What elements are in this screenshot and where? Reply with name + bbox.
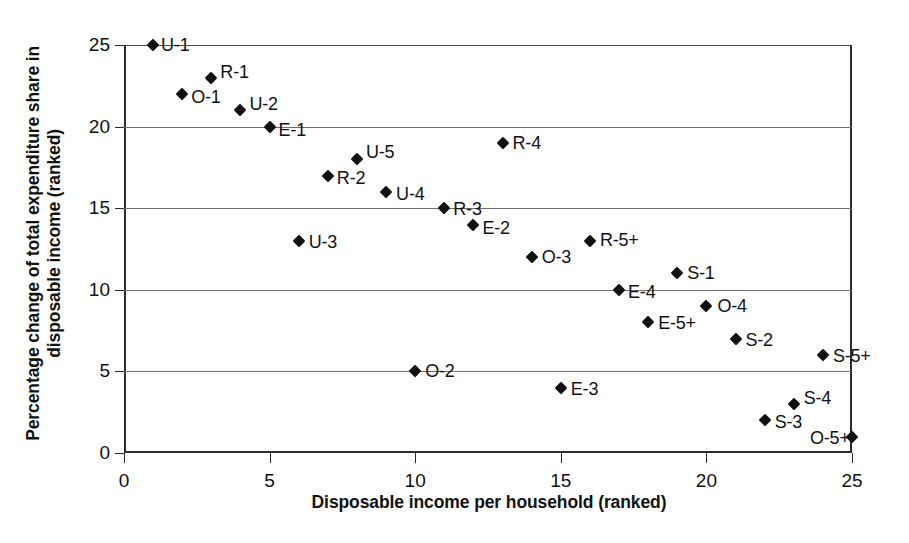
data-point-label: R-5+: [600, 229, 639, 250]
data-point-label: S-5+: [833, 346, 871, 367]
gridline: [124, 290, 852, 291]
data-point-label: E-4: [628, 281, 655, 302]
data-point-label: O-1: [191, 86, 220, 107]
y-axis-title: Percentage change of total expenditure s…: [23, 23, 66, 463]
data-point-label: E-2: [482, 217, 509, 238]
y-tick-mark: [115, 208, 124, 209]
y-tick-label: 15: [89, 197, 110, 219]
y-tick-mark: [115, 290, 124, 291]
plot-area: 0510152025 0510152025 U-1O-1R-1U-2E-1U-3…: [124, 45, 852, 453]
y-tick-label: 10: [89, 279, 110, 301]
gridline: [124, 208, 852, 209]
gridline: [124, 127, 852, 128]
y-tick-label: 0: [99, 442, 110, 464]
data-point-label: S-1: [687, 263, 714, 284]
plot-frame: [124, 45, 852, 453]
scatter-chart-figure: Percentage change of total expenditure s…: [0, 0, 909, 543]
data-point-label: E-5+: [658, 313, 696, 334]
x-tick-mark: [415, 453, 416, 463]
data-point-label: S-4: [804, 388, 831, 409]
data-point-label: R-3: [453, 199, 481, 220]
x-tick-mark: [561, 453, 562, 463]
x-tick-label: 20: [696, 470, 717, 492]
data-point-label: R-4: [513, 132, 541, 153]
data-point-label: R-2: [337, 167, 365, 188]
data-point-label: R-1: [220, 61, 248, 82]
data-point-label: S-2: [746, 329, 773, 350]
x-tick-label: 0: [119, 470, 130, 492]
data-point-label: U-5: [366, 142, 394, 163]
x-tick-mark: [706, 453, 707, 463]
data-point-label: E-1: [279, 119, 306, 140]
x-tick-label: 25: [841, 470, 862, 492]
y-tick-label: 5: [99, 360, 110, 382]
data-point-label: O-3: [542, 247, 571, 268]
y-tick-label: 20: [89, 115, 110, 137]
y-tick-mark: [115, 127, 124, 128]
data-point-label: U-4: [396, 183, 424, 204]
data-point-label: U-1: [161, 35, 189, 56]
data-point-label: O-2: [425, 361, 454, 382]
gridline: [124, 371, 852, 372]
x-tick-label: 10: [405, 470, 426, 492]
data-point-label: U-3: [309, 231, 337, 252]
data-point-label: E-3: [571, 378, 598, 399]
y-tick-label: 25: [89, 34, 110, 56]
y-tick-mark: [115, 45, 124, 46]
x-axis-title: Disposable income per household (ranked): [124, 492, 854, 513]
y-tick-mark: [115, 371, 124, 372]
data-point-label: O-4: [717, 296, 746, 317]
x-tick-mark: [270, 453, 271, 463]
y-tick-mark: [115, 453, 124, 454]
data-point-label: U-2: [249, 94, 277, 115]
x-tick-mark: [852, 453, 853, 463]
x-tick-label: 5: [264, 470, 275, 492]
data-point-label: S-3: [775, 412, 802, 433]
x-tick-mark: [124, 453, 125, 463]
data-point-label: O-5+: [810, 427, 850, 448]
x-tick-label: 15: [550, 470, 571, 492]
